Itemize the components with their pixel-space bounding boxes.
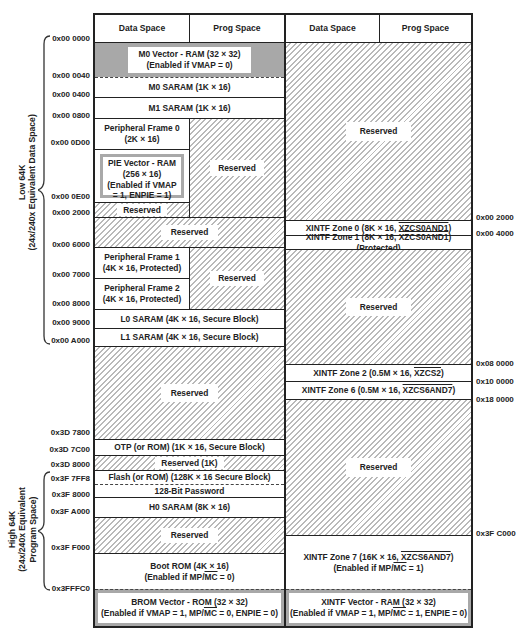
address-label: 0x3FFFC0 [52,584,90,593]
header-left-prog-space: Prog Space [189,15,284,42]
address-label: 0x00 4000 [476,229,514,238]
address-label: 0x3F 7FF8 [51,474,90,483]
header-right-prog-space: Prog Space [379,15,471,42]
high-64k-label: High 64K (24x/240x Equivalent Program Sp… [7,469,38,589]
password-block: 128-Bit Password [95,484,284,497]
reserved-block: Reserved [95,517,284,553]
high-64k-brace-icon [38,470,58,592]
reserved-block: Reserved [286,249,471,364]
xintf-zone-7-block: XINTF Zone 7 (16K × 16, XZCS6AND7)(Enabl… [286,535,471,589]
xintf-zone-1-block: XINTF Zone 1 (8K × 16, XZCS0AND1) (Prote… [286,235,471,249]
address-label: 0x3F C000 [476,529,516,538]
address-label: 0x00 7000 [52,270,90,279]
address-label: 0x00 2000 [52,208,90,217]
address-label: 0x00 0E00 [51,192,90,201]
l1-saram-block: L1 SARAM (4K × 16, Secure Block) [95,328,284,346]
peripheral-frame-2-block: Peripheral Frame 2(4K × 16, Protected) [95,278,189,309]
peripheral-frame-0-block: Peripheral Frame 0(2K × 16) [95,118,189,149]
reserved-block: Reserved [189,118,284,217]
pie-vector-ram-block: PIE Vector - RAM(256 × 16)(Enabled if VM… [95,149,189,202]
l0-saram-block: L0 SARAM (4K × 16, Secure Block) [95,309,284,328]
reserved-block: Reserved [286,399,471,535]
low-64k-label: Low 64K (24x/240x Equivalent Data Space) [17,82,38,282]
address-label: 0x3F F000 [51,543,90,552]
address-label: 0x3D 8000 [51,460,90,469]
address-label: 0x00 0040 [52,71,90,80]
address-label: 0x00 0D00 [51,138,90,147]
header-right-data-space: Data Space [284,15,379,42]
header-left-data-space: Data Space [95,15,189,42]
address-label: 0x3F A000 [51,507,90,516]
address-label: 0x08 0000 [476,359,514,368]
reserved-block: Reserved [95,346,284,439]
address-label: 0x00 9000 [52,318,90,327]
memory-map-frame: Data Space Prog Space Data Space Prog Sp… [93,13,473,628]
reserved-block: Reserved [95,217,284,247]
boot-rom-block: Boot ROM (4K × 16)(Enabled if MP/MC = 0) [95,553,284,589]
h0-saram-block: H0 SARAM (8K × 16) [95,497,284,517]
xintf-zone-2-block: XINTF Zone 2 (0.5M × 16, XZCS2) [286,364,471,381]
address-label: 0x3F 8000 [52,490,90,499]
address-label: 0x18 0000 [476,395,514,404]
address-label: 0x00 2000 [476,213,514,222]
address-label: 0x3D 7C00 [50,445,90,454]
m0-saram-block: M0 SARAM (1K × 16) [95,77,284,97]
reserved-1k-block: Reserved (1K) [95,455,284,470]
address-label: 0x00 0800 [52,111,90,120]
reserved-block: Reserved [95,202,189,217]
address-label: 0x00 0000 [52,34,90,43]
otp-block: OTP (or ROM) (1K × 16, Secure Block) [95,439,284,455]
xintf-vector-ram-block: XINTF Vector - RAM (32 × 32)(Enabled if … [286,589,471,626]
m1-saram-block: M1 SARAM (1K × 16) [95,97,284,118]
reserved-block: Reserved [189,247,284,309]
xintf-zone-6-block: XINTF Zone 6 (0.5M × 16, XZCS6AND7) [286,381,471,399]
address-label: 0x00 8000 [52,299,90,308]
address-label: 0x10 0000 [476,377,514,386]
address-label: 0x00 6000 [52,240,90,249]
address-label: 0x00 A000 [51,336,90,345]
reserved-block: Reserved [286,42,471,220]
m0-vector-ram-block: M0 Vector - RAM (32 × 32)(Enabled if VMA… [95,42,284,77]
peripheral-frame-1-block: Peripheral Frame 1(4K × 16, Protected) [95,247,189,278]
address-label: 0x00 0400 [52,90,90,99]
address-label: 0x3D 7800 [51,428,90,437]
brom-vector-rom-block: BROM Vector - ROM (32 × 32)(Enabled if V… [95,589,284,626]
flash-block: Flash (or ROM) (128K × 16 Secure Block) [95,470,284,484]
